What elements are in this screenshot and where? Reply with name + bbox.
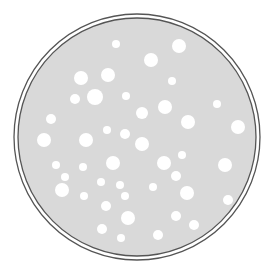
spot [171,171,181,181]
spot [157,156,171,170]
spot [120,129,130,139]
spot [61,173,69,181]
spot [149,183,157,191]
spot [181,115,195,129]
spot [231,120,245,134]
spot [103,126,111,134]
spot [172,39,186,53]
spot [87,89,103,105]
spot [223,195,233,205]
spot [79,133,93,147]
spot [218,158,232,172]
spot [37,133,51,147]
spot [97,178,105,186]
spot [74,71,88,85]
spot [116,181,124,189]
spot [171,211,181,221]
spot [106,156,120,170]
spot [79,163,87,171]
spot [112,40,120,48]
spot [52,161,60,169]
spot [121,192,129,200]
spot [97,224,107,234]
spot [158,100,172,114]
spot [121,211,135,225]
spot [178,151,186,159]
spot [189,220,199,230]
spot [117,234,125,242]
spot [136,107,148,119]
spot [213,100,221,108]
spot [153,230,163,240]
spot [144,53,158,67]
spot [80,192,88,200]
spot [180,186,194,200]
petri-dish-illustration [0,0,268,273]
spot [101,201,111,211]
spot [101,68,115,82]
dish-plate [18,18,256,256]
spot [168,77,176,85]
spot [70,94,80,104]
spot [46,114,56,124]
spot [122,92,130,100]
spot [55,183,69,197]
spot [135,137,149,151]
